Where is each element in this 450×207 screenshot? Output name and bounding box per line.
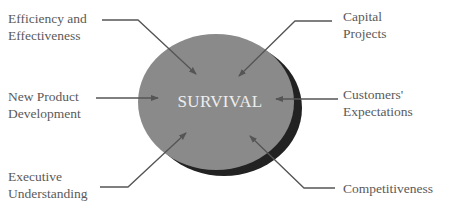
factor-executive: Executive Understanding: [8, 168, 87, 202]
factor-line: Customers': [343, 86, 413, 103]
factor-line: Capital: [343, 8, 387, 25]
factor-customers: Customers' Expectations: [343, 86, 413, 120]
factor-line: Expectations: [343, 103, 413, 120]
factor-line: Effectiveness: [8, 27, 87, 44]
factor-efficiency: Efficiency and Effectiveness: [8, 10, 87, 44]
factor-line: New Product: [8, 88, 81, 105]
factor-line: Understanding: [8, 185, 87, 202]
factor-line: Efficiency and: [8, 10, 87, 27]
factor-line: Executive: [8, 168, 87, 185]
factor-line: Projects: [343, 25, 387, 42]
factor-competitiveness: Competitiveness: [343, 180, 433, 197]
factor-capital: Capital Projects: [343, 8, 387, 42]
factor-line: Competitiveness: [343, 180, 433, 197]
factor-new-product: New Product Development: [8, 88, 81, 122]
center-label: SURVIVAL: [170, 92, 270, 112]
factor-line: Development: [8, 105, 81, 122]
